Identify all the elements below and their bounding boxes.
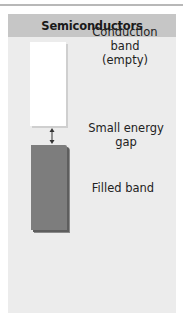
gap-label-line-2: gap bbox=[78, 135, 174, 149]
conduction-label-line-1: Conduction bbox=[80, 25, 170, 39]
gap-label-line-1: Small energy bbox=[78, 121, 174, 135]
conduction-band-box bbox=[30, 42, 66, 126]
conduction-label-line-3: (empty) bbox=[80, 53, 170, 67]
energy-gap-label: Small energy gap bbox=[78, 121, 174, 149]
double-arrow-icon bbox=[48, 128, 56, 144]
top-divider-rule bbox=[0, 4, 183, 6]
conduction-label-line-2: band bbox=[80, 39, 170, 53]
filled-label-line-1: Filled band bbox=[78, 181, 168, 195]
filled-band-box bbox=[31, 145, 67, 230]
filled-band-label: Filled band bbox=[78, 181, 168, 195]
semiconductors-panel: Semiconductors Conduction band (empty) S… bbox=[8, 14, 176, 313]
conduction-band-label: Conduction band (empty) bbox=[80, 25, 170, 67]
